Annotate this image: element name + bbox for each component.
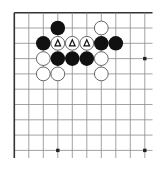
black-stone xyxy=(65,51,80,66)
black-stone xyxy=(36,36,51,51)
black-stone-icon xyxy=(109,36,124,51)
black-stone xyxy=(51,51,66,66)
white-stone-marked xyxy=(51,36,65,50)
white-stone-icon xyxy=(51,67,65,81)
star-point xyxy=(143,149,146,152)
black-stone xyxy=(109,36,124,51)
white-stone-icon xyxy=(36,52,50,66)
star-point xyxy=(143,57,146,60)
black-stone-icon xyxy=(65,51,80,66)
white-stone xyxy=(36,52,50,66)
black-stone-icon xyxy=(51,21,66,36)
white-stone xyxy=(36,67,50,81)
black-stone-icon xyxy=(36,36,51,51)
white-stone-icon xyxy=(94,52,108,66)
white-stone-icon xyxy=(36,67,50,81)
black-stone xyxy=(94,36,109,51)
white-stone xyxy=(94,67,108,81)
black-stone xyxy=(80,51,95,66)
white-stone-marked xyxy=(65,36,79,50)
grid-lines xyxy=(14,13,152,158)
white-stone xyxy=(94,52,108,66)
white-stone-icon xyxy=(94,21,108,35)
stones xyxy=(36,21,123,81)
go-board xyxy=(0,0,167,183)
black-stone xyxy=(51,21,66,36)
black-stone-icon xyxy=(80,51,95,66)
black-stone-icon xyxy=(51,51,66,66)
white-stone-marked xyxy=(80,36,94,50)
star-point xyxy=(56,149,59,152)
white-stone-icon xyxy=(94,67,108,81)
black-stone-icon xyxy=(94,36,109,51)
white-stone xyxy=(51,67,65,81)
white-stone xyxy=(94,21,108,35)
